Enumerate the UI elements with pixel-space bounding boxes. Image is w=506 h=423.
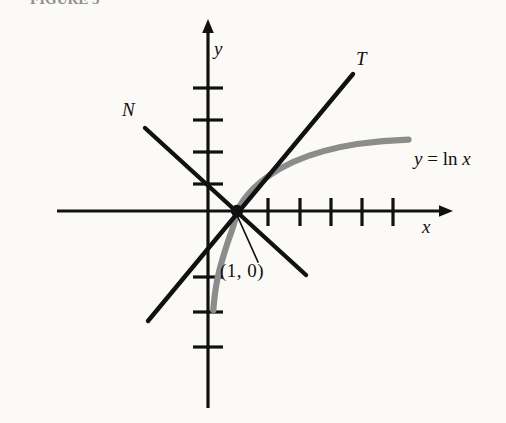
tangent-line-label: T xyxy=(356,48,367,70)
curve-equation-label: y = ln x xyxy=(414,148,471,170)
normal-line-label: N xyxy=(122,99,135,121)
curve-equation-rhs: ln xyxy=(443,148,463,169)
y-axis xyxy=(202,19,214,408)
ln-curve xyxy=(213,140,408,310)
point-marker-1-0 xyxy=(231,205,243,217)
figure-canvas: FIGURE 5 xyxy=(0,0,506,423)
point-coordinate-label: (1, 0) xyxy=(220,260,264,282)
x-axis-label: x xyxy=(422,216,430,238)
graph-svg xyxy=(0,0,506,423)
curve-equation-var: x xyxy=(462,148,470,169)
curve-equation-eq: = xyxy=(422,148,442,169)
tangent-line-T xyxy=(148,74,353,321)
y-axis-label: y xyxy=(214,38,222,60)
